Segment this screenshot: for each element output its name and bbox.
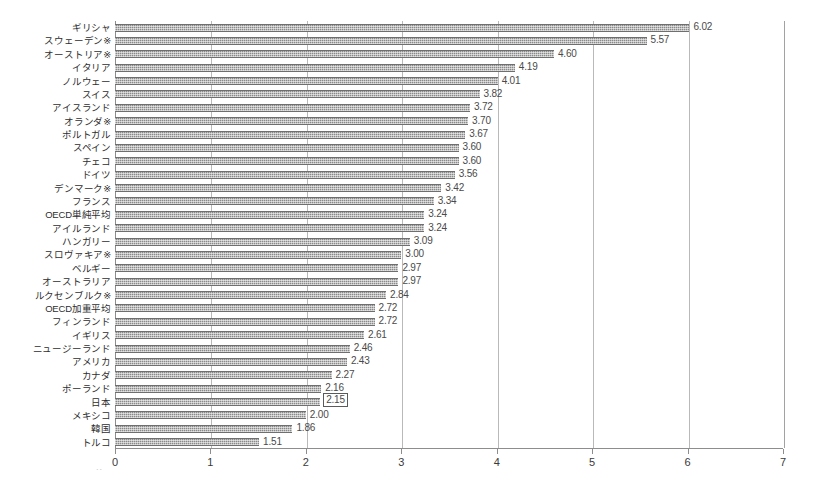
- x-tick-label: 3: [398, 456, 404, 468]
- x-tick: [497, 449, 498, 454]
- bar-row: 2.46: [115, 342, 783, 356]
- bar: [115, 238, 410, 246]
- bar: [115, 345, 350, 353]
- category-label: OECD加重平均: [0, 302, 111, 316]
- x-tick: [783, 449, 784, 454]
- bar: [115, 251, 401, 259]
- category-label: アイスランド: [0, 101, 111, 115]
- bar: [115, 425, 292, 433]
- bar-row: 6.02: [115, 21, 783, 35]
- bar: [115, 224, 424, 232]
- bar-value-label: 3.60: [463, 154, 482, 167]
- bar-row: 3.09: [115, 235, 783, 249]
- bar: [115, 358, 347, 366]
- bar-row: 3.60: [115, 141, 783, 155]
- bar-value-label: 3.67: [469, 127, 488, 140]
- bar: [115, 144, 459, 152]
- bar-row: 3.72: [115, 101, 783, 115]
- x-tick-label: 0: [112, 456, 118, 468]
- bar: [115, 211, 424, 219]
- bar: [115, 264, 398, 272]
- bar: [115, 77, 498, 85]
- category-label: メキシコ: [0, 409, 111, 423]
- bar: [115, 117, 468, 125]
- bar-row: 3.24: [115, 208, 783, 222]
- bar-chart: ギリシャスウェーデン※オーストリア※イタリアノルウェースイスアイスランドオランダ…: [0, 0, 823, 492]
- bar: [115, 278, 398, 286]
- x-tick: [401, 449, 402, 454]
- bar: [115, 411, 306, 419]
- x-tick-label: 2: [303, 456, 309, 468]
- category-label: アイルランド: [0, 222, 111, 236]
- bar-row: 3.60: [115, 155, 783, 169]
- category-label: オーストラリア: [0, 275, 111, 289]
- category-label: ハンガリー: [0, 235, 111, 249]
- gridline-7: [784, 21, 785, 448]
- category-label: ドイツ: [0, 168, 111, 182]
- category-label: ルクセンブルク※: [0, 289, 111, 303]
- x-tick: [115, 449, 116, 454]
- bar-row: 2.72: [115, 315, 783, 329]
- scan-artifact-mark: ..: [96, 462, 103, 472]
- category-label: ポーランド: [0, 382, 111, 396]
- bar: [115, 90, 480, 98]
- bar: [115, 331, 364, 339]
- bar-row: 2.27: [115, 369, 783, 383]
- bar: [115, 171, 455, 179]
- x-tick: [592, 449, 593, 454]
- x-tick-label: 6: [685, 456, 691, 468]
- bar: [115, 104, 470, 112]
- bar-value-label: 2.97: [402, 274, 421, 287]
- bar-value-label: 3.72: [474, 100, 493, 113]
- bar-value-label: 3.24: [428, 221, 447, 234]
- bar-value-label: 6.02: [693, 20, 712, 33]
- bar-value-label: 3.82: [484, 87, 503, 100]
- bar-value-label: 2.72: [379, 314, 398, 327]
- category-label: イギリス: [0, 329, 111, 343]
- category-label: フィンランド: [0, 315, 111, 329]
- bar: [115, 197, 434, 205]
- bar-row: 3.34: [115, 195, 783, 209]
- category-label: チェコ: [0, 155, 111, 169]
- category-label: カナダ: [0, 369, 111, 383]
- bar: [115, 64, 515, 72]
- category-label: スイス: [0, 88, 111, 102]
- bar-row: 3.00: [115, 248, 783, 262]
- category-label: アメリカ: [0, 355, 111, 369]
- bar-row: 3.82: [115, 88, 783, 102]
- bar-row: 2.15: [115, 396, 783, 410]
- category-label: オーストリア※: [0, 48, 111, 62]
- x-tick-label: 5: [589, 456, 595, 468]
- category-label: ベルギー: [0, 262, 111, 276]
- bar-row: 4.19: [115, 61, 783, 75]
- bar: [115, 184, 441, 192]
- bar-value-label: 2.61: [368, 328, 387, 341]
- category-label: OECD単純平均: [0, 208, 111, 222]
- bar-series: 6.025.574.604.194.013.823.723.703.673.60…: [115, 21, 783, 449]
- bar-row: 2.61: [115, 329, 783, 343]
- category-label: スペイン: [0, 141, 111, 155]
- x-tick: [688, 449, 689, 454]
- bar-value-label: 5.57: [651, 33, 670, 46]
- bar: [115, 318, 375, 326]
- bar-value-label: 3.09: [414, 234, 433, 247]
- x-tick-label: 7: [780, 456, 786, 468]
- bar-value-label: 2.27: [336, 368, 355, 381]
- bar: [115, 157, 459, 165]
- bar-row: 3.67: [115, 128, 783, 142]
- bar-row: 2.72: [115, 302, 783, 316]
- category-label: イタリア: [0, 61, 111, 75]
- category-label: ポルトガル: [0, 128, 111, 142]
- category-label: デンマーク※: [0, 182, 111, 196]
- bar-value-label: 3.00: [405, 247, 424, 260]
- bar: [115, 438, 259, 446]
- bar-value-label: 2.72: [379, 301, 398, 314]
- bar-row: 5.57: [115, 34, 783, 48]
- category-label: オランダ※: [0, 115, 111, 129]
- bar-value-label: 4.60: [558, 47, 577, 60]
- bar: [115, 304, 375, 312]
- bar-row: 4.01: [115, 75, 783, 89]
- bar-value-label: 1.86: [296, 421, 315, 434]
- bar: [115, 398, 320, 406]
- bar-value-label: 3.56: [459, 167, 478, 180]
